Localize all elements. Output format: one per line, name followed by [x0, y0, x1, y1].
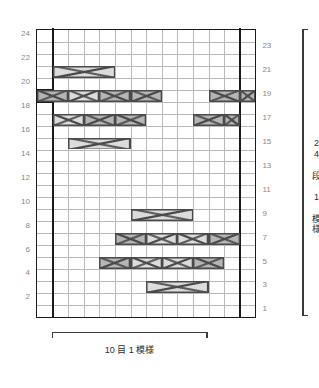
grid-line-horizontal [37, 173, 255, 174]
bracket-tick-right [206, 332, 207, 338]
vertical-repeat-caption: 24 段 1 模様 [310, 138, 319, 234]
row-number-right: 5 [262, 258, 284, 266]
cable-cross-symbol [99, 257, 130, 269]
row-number-left: 16 [6, 126, 30, 134]
row-number-left: 8 [6, 222, 30, 230]
repeat-boundary-line [239, 28, 241, 318]
row-number-right: 19 [262, 90, 284, 98]
cable-cross-symbol [193, 257, 224, 269]
bracket-tick-top [302, 29, 308, 30]
grid-line-horizontal [37, 150, 255, 151]
row-number-right: 3 [262, 281, 284, 289]
bracket-bar [302, 29, 303, 316]
grid-line-horizontal [37, 126, 255, 127]
row-number-right: 7 [262, 234, 284, 242]
cable-cross-symbol [146, 281, 208, 293]
cable-cross-symbol [224, 114, 240, 126]
grid-line-horizontal [37, 305, 255, 306]
cable-cross-symbol [84, 114, 115, 126]
pattern-grid [36, 29, 256, 318]
cable-cross-symbol [209, 90, 240, 102]
row-number-left: 20 [6, 78, 30, 86]
cable-cross-symbol [53, 66, 115, 78]
cable-cross-symbol [115, 114, 146, 126]
bracket-tick-bottom [302, 315, 308, 316]
cable-cross-symbol [209, 233, 240, 245]
bracket-bar [52, 332, 208, 333]
grid-line-horizontal [37, 269, 255, 270]
vertical-repeat-bracket [302, 29, 309, 316]
grid-line-horizontal [37, 293, 255, 294]
grid-line-horizontal [37, 221, 255, 222]
horizontal-repeat-bracket [52, 332, 208, 339]
row-number-left: 4 [6, 269, 30, 277]
row-number-right: 1 [262, 305, 284, 313]
row-number-right: 15 [262, 138, 284, 146]
cable-cross-symbol [131, 209, 193, 221]
grid-line-horizontal [37, 197, 255, 198]
row-number-left: 2 [6, 293, 30, 301]
cable-cross-symbol [131, 257, 162, 269]
cable-cross-symbol [99, 90, 130, 102]
cable-cross-symbol [240, 90, 256, 102]
row-number-right: 9 [262, 210, 284, 218]
row-number-left: 14 [6, 150, 30, 158]
knitting-chart: 24222018161412108642 2321191715131197531… [0, 0, 319, 388]
row-number-left: 24 [6, 30, 30, 38]
grid-line-horizontal [37, 42, 255, 43]
row-number-left: 10 [6, 198, 30, 206]
grid-line-horizontal [37, 245, 255, 246]
cable-cross-symbol [115, 233, 146, 245]
cable-cross-symbol [37, 90, 68, 102]
cable-cross-symbol [162, 257, 193, 269]
grid-line-horizontal [37, 161, 255, 162]
cable-cross-symbol [177, 233, 208, 245]
row-number-left: 22 [6, 54, 30, 62]
row-number-left: 12 [6, 174, 30, 182]
grid-line-horizontal [37, 54, 255, 55]
grid-line-horizontal [37, 185, 255, 186]
row-number-right: 11 [262, 186, 284, 194]
cable-cross-symbol [131, 90, 162, 102]
row-number-left: 6 [6, 246, 30, 254]
horizontal-repeat-caption: 10 目 1 模様 [22, 343, 238, 356]
grid-line-horizontal [37, 102, 255, 103]
cable-cross-symbol [146, 233, 177, 245]
row-number-right: 21 [262, 66, 284, 74]
row-number-left: 18 [6, 102, 30, 110]
row-number-right: 13 [262, 162, 284, 170]
row-number-right: 17 [262, 114, 284, 122]
cable-cross-symbol [68, 90, 99, 102]
cable-cross-symbol [53, 114, 84, 126]
row-number-right: 23 [262, 42, 284, 50]
cable-cross-symbol [68, 138, 130, 150]
bracket-tick-left [52, 332, 53, 338]
grid-line-horizontal [37, 78, 255, 79]
cable-cross-symbol [193, 114, 224, 126]
